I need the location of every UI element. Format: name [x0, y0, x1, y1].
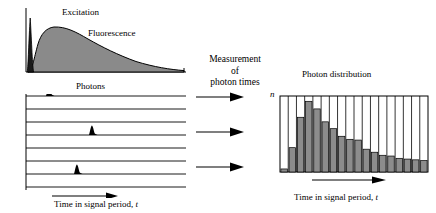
histogram-bar — [396, 158, 402, 172]
histogram-bar — [380, 155, 386, 172]
histogram-bar — [363, 149, 369, 172]
histogram-bar — [355, 140, 361, 172]
hist-time-arrow-head — [372, 176, 386, 183]
histogram-bar — [388, 156, 394, 172]
photons-label: Photons — [76, 82, 105, 91]
time-arrow-head — [106, 192, 118, 198]
right-axis-caption-text: Time in signal period, — [294, 192, 375, 202]
histogram-bar — [347, 139, 353, 172]
transfer-arrow-head — [230, 163, 244, 172]
trace-lines — [26, 96, 186, 187]
histogram-bar — [404, 159, 410, 172]
fluorescence-label: Fluorescence — [88, 29, 135, 38]
histogram-bar — [306, 101, 312, 172]
transfer-arrow-head — [230, 128, 244, 137]
transfer-arrow-head — [230, 93, 244, 102]
excitation-label: Excitation — [62, 8, 99, 17]
histogram-bar — [338, 136, 344, 172]
histogram-bar — [371, 152, 377, 172]
measurement-line-1: Measurement — [186, 54, 284, 66]
photon-distribution-title: Photon distribution — [302, 70, 371, 79]
left-axis-caption-text: Time in signal period, — [54, 199, 135, 209]
left-axis-caption: Time in signal period, t — [54, 199, 138, 209]
histogram-bar — [412, 160, 418, 172]
histogram-bar — [314, 109, 320, 172]
decay-curve-plot — [14, 6, 190, 78]
photon-spike — [89, 126, 99, 136]
histogram-bar — [297, 117, 303, 172]
histogram-bar — [289, 148, 295, 172]
left-axis-caption-var: t — [135, 199, 138, 209]
photon-spike — [74, 165, 84, 175]
photon-spikes — [46, 94, 99, 174]
histogram-bar — [421, 161, 427, 172]
photon-histogram — [268, 94, 432, 184]
right-axis-caption: Time in signal period, t — [294, 192, 378, 202]
tcspc-figure: Excitation Fluorescence Photons — [0, 0, 436, 213]
histogram-bar — [330, 129, 336, 172]
right-axis-caption-var: t — [375, 192, 378, 202]
histogram-bar — [281, 169, 287, 172]
excitation-peak — [27, 18, 33, 72]
right-panel: Photon distribution n Time in signal per… — [268, 70, 432, 206]
left-panel: Excitation Fluorescence Photons — [14, 6, 190, 206]
photon-traces-plot — [14, 94, 190, 198]
histogram-bar — [322, 122, 328, 172]
